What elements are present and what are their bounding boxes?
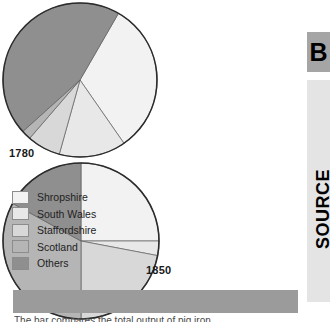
source-b-figure: 1780 1850 Shropshire South Wales Staffor… [0,0,331,322]
source-letter-box: B [307,32,330,72]
source-word-box: SOURCE [307,80,330,302]
pie-1780-year-label: 1780 [9,147,34,159]
legend-item-others: Others [12,255,132,272]
source-letter: B [309,40,327,65]
legend-item-staffordshire: Staffordshire [12,222,132,239]
pie-1780-svg [0,0,160,160]
pie-1850-year-label: 1850 [146,264,171,276]
legend-label-scotland: Scotland [37,242,78,253]
legend-swatch-south-wales [12,207,29,220]
source-word-label: SOURCE [314,119,331,299]
legend-swatch-shropshire [12,191,29,204]
legend-swatch-staffordshire [12,224,29,237]
legend-item-shropshire: Shropshire [12,189,132,206]
pie-chart-1780 [0,0,160,160]
source-rail: B SOURCE [304,0,331,322]
legend-swatch-scotland [12,240,29,253]
legend-label-shropshire: Shropshire [37,192,88,203]
legend-label-staffordshire: Staffordshire [37,225,96,236]
legend-swatch-others [12,257,29,270]
chart-legend: Shropshire South Wales Staffordshire Sco… [12,189,132,272]
legend-label-others: Others [37,258,69,269]
legend-label-south-wales: South Wales [37,209,96,220]
legend-item-scotland: Scotland [12,239,132,256]
output-comparison-bar [13,290,298,313]
bottom-caption-text: The bar compares the total output of pig… [14,315,294,322]
legend-item-south-wales: South Wales [12,206,132,223]
